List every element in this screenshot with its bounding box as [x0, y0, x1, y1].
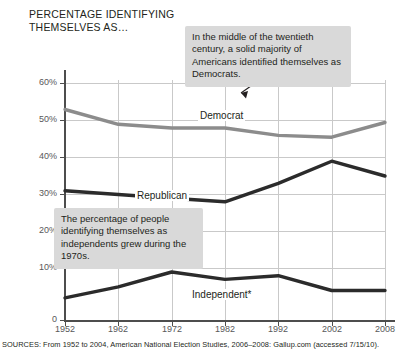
- x-axis-line: [64, 320, 395, 322]
- plot-area: Democrat Republican Independent*: [65, 80, 385, 320]
- y-axis-label-50: 50%: [25, 114, 57, 124]
- y-axis-label-20: 20%: [25, 225, 57, 235]
- x-axis-label-2008: 2008: [363, 324, 407, 334]
- democrat-callout: In the middle of the twentieth century, …: [185, 26, 351, 87]
- x-axis-label-1972: 1972: [150, 324, 194, 334]
- independent-callout: The percentage of people identifying the…: [54, 208, 203, 269]
- series-label-independent: Independent*: [190, 289, 254, 300]
- x-axis-label-1952: 1952: [43, 324, 87, 334]
- x-axis-label-1992: 1992: [256, 324, 300, 334]
- y-axis-label-0: 0: [25, 314, 57, 324]
- source-note: SOURCES: From 1952 to 2004, American Nat…: [2, 340, 418, 349]
- series-label-republican: Republican: [135, 190, 189, 201]
- chart-page: PERCENTAGE IDENTIFYING THEMSELVES AS…: [0, 0, 420, 356]
- x-axis-label-1982: 1982: [203, 324, 247, 334]
- y-axis-label-10: 10%: [25, 262, 57, 272]
- x-axis-label-2002: 2002: [310, 324, 354, 334]
- y-axis-label-40: 40%: [25, 151, 57, 161]
- y-axis-label-60: 60%: [25, 77, 57, 87]
- x-axis-label-1962: 1962: [96, 324, 140, 334]
- line-republican: [65, 161, 385, 202]
- gridline-2008: [385, 80, 386, 320]
- series-label-democrat: Democrat: [198, 110, 245, 121]
- y-axis-label-30: 30%: [25, 188, 57, 198]
